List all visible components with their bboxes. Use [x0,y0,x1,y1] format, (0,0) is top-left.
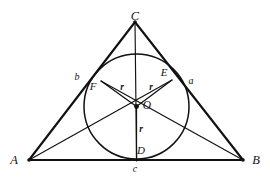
label-incenter-o: O [143,100,151,112]
incenter-point [134,104,139,109]
label-radius-right: r [149,83,153,93]
label-vertex-b: B [252,154,260,167]
label-side-b: b [75,72,80,82]
label-side-a: a [189,76,194,86]
geometry-canvas [0,0,270,178]
label-radius-left: r [120,83,124,93]
label-tangent-e: E [161,67,168,78]
label-tangent-f: F [90,81,97,92]
inradius-OF [101,81,137,107]
vertex-point-A [27,158,31,162]
geometry-figure: C A B b a c F E D O r r r [0,0,270,178]
label-radius-bottom: r [139,125,143,135]
label-vertex-c: C [131,10,139,23]
vertex-point-B [241,158,245,162]
label-tangent-d: D [137,145,145,156]
bisector-from-B-to-F [101,81,243,160]
label-side-c: c [133,164,137,174]
inradius-OE [137,80,173,107]
label-vertex-a: A [10,154,18,167]
